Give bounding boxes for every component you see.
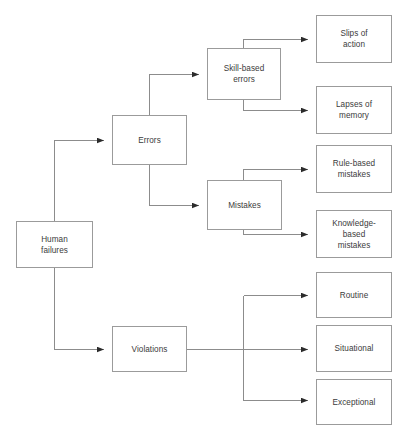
edge-human-failures-to-errors [55, 141, 105, 222]
node-lapses-of-memory-label: Lapses of memory [336, 99, 372, 121]
node-rule-based-mistakes[interactable]: Rule-based mistakes [316, 145, 392, 193]
edge-errors-to-mistakes [150, 165, 200, 206]
node-routine-label: Routine [340, 290, 369, 301]
node-mistakes[interactable]: Mistakes [207, 180, 282, 230]
node-rule-based-mistakes-label: Rule-based mistakes [333, 158, 375, 180]
node-lapses-of-memory[interactable]: Lapses of memory [316, 86, 392, 134]
node-skill-based-errors[interactable]: Skill-based errors [207, 48, 281, 100]
node-violations-label: Violations [132, 344, 168, 355]
edge-mistakes-to-rule-based-mistakes [244, 170, 309, 181]
edge-skill-based-errors-to-lapses-of-memory [244, 100, 309, 111]
node-human-failures-label: Human failures [41, 234, 68, 256]
node-violations[interactable]: Violations [112, 326, 187, 372]
node-slips-of-action[interactable]: Slips of action [316, 15, 392, 63]
node-routine[interactable]: Routine [316, 272, 392, 318]
node-knowledge-based-mistakes[interactable]: Knowledge- based mistakes [316, 210, 392, 258]
node-errors[interactable]: Errors [112, 115, 187, 165]
node-exceptional-label: Exceptional [333, 397, 376, 408]
node-situational[interactable]: Situational [316, 325, 392, 372]
edge-skill-based-errors-to-slips-of-action [244, 40, 309, 49]
edge-mistakes-to-knowledge-based-mistakes [244, 230, 309, 235]
node-errors-label: Errors [138, 135, 161, 146]
edge-errors-to-skill-based-errors [150, 75, 200, 116]
node-slips-of-action-label: Slips of action [340, 28, 367, 50]
node-skill-based-errors-label: Skill-based errors [224, 63, 265, 85]
node-exceptional[interactable]: Exceptional [316, 379, 392, 425]
human-failures-diagram: Human failures Errors Violations Skill-b… [0, 0, 409, 440]
node-situational-label: Situational [335, 343, 374, 354]
node-knowledge-based-mistakes-label: Knowledge- based mistakes [332, 218, 376, 251]
edge-human-failures-to-violations [55, 268, 105, 350]
node-mistakes-label: Mistakes [228, 200, 261, 211]
node-human-failures[interactable]: Human failures [16, 221, 93, 268]
